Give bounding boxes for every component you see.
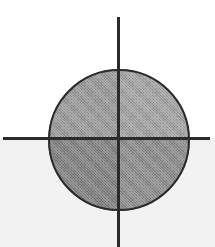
circle-quadrant-ii <box>48 69 119 140</box>
circle-quadrant-iii <box>48 140 119 211</box>
x-axis-line <box>3 137 210 140</box>
circle-quadrant-i <box>119 69 190 140</box>
y-axis-line <box>117 17 120 247</box>
figure-canvas <box>0 0 215 247</box>
circle-quadrant-iv <box>119 140 190 211</box>
